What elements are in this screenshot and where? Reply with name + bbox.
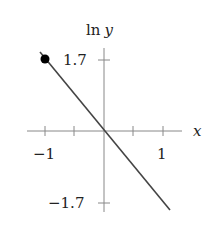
y-axis-label: lny [86, 21, 113, 39]
x-axis-label: x [193, 122, 202, 140]
data-point-marker [41, 55, 50, 64]
y-tick-label-neg: −1.7 [48, 194, 84, 212]
chart: lny x −1 1 1.7 −1.7 [0, 0, 220, 232]
x-tick-label-pos1: 1 [157, 145, 167, 163]
x-tick-label-neg1: −1 [33, 145, 55, 163]
y-tick-label-pos: 1.7 [63, 51, 87, 69]
